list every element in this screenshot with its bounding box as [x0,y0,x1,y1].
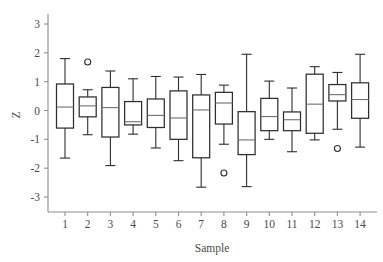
box-group [102,71,119,166]
box-rect [215,92,232,124]
box-rect [57,84,74,128]
box-group [147,76,164,148]
box-rect [79,97,96,117]
box-group [79,59,96,135]
x-tick-label: 8 [221,218,227,230]
x-tick-label: 5 [153,218,159,230]
x-tick-label: 4 [130,218,136,230]
y-tick-label: 2 [34,47,40,59]
y-tick-label: 3 [34,18,40,30]
box-rect [238,112,255,155]
box-group [193,74,210,187]
x-axis-group: 1234567891011121314 [48,212,377,230]
box-group [261,81,278,139]
boxplot-figure: -3-2-10123 1234567891011121314 Z Sample [0,0,383,262]
x-tick-label: 1 [62,218,68,230]
x-tick-label: 7 [198,218,204,230]
x-tick-label: 11 [286,218,297,230]
x-tick-label: 9 [244,218,250,230]
y-tick-label: 0 [34,105,40,117]
box-group [125,79,142,134]
x-tick-label: 3 [108,218,114,230]
box-rect [284,112,301,131]
outlier-point [221,170,227,176]
box-rect [170,91,187,139]
boxes-group [57,54,369,187]
box-rect [193,95,210,158]
y-tick-label: -2 [30,162,40,174]
y-tick-label: 1 [34,76,40,88]
x-tick-label: 13 [332,218,344,230]
outlier-point [334,146,340,152]
x-axis-title: Sample [195,242,230,255]
y-tick-label: -3 [30,191,40,203]
y-axis-title: Z [10,111,22,118]
x-tick-label: 14 [354,218,366,230]
box-group [352,54,369,147]
box-rect [261,98,278,130]
box-group [170,77,187,161]
x-tick-label: 12 [309,218,321,230]
box-group [306,67,323,140]
box-group [238,54,255,186]
box-group [284,88,301,152]
box-group [57,59,74,158]
y-tick-label: -1 [30,133,40,145]
box-rect [329,85,346,101]
boxplot-canvas: -3-2-10123 1234567891011121314 Z Sample [0,0,383,262]
x-tick-label: 2 [85,218,91,230]
box-rect [147,99,164,128]
outlier-point [85,59,91,65]
x-tick-label: 10 [264,218,276,230]
x-tick-label: 6 [176,218,182,230]
box-rect [352,83,369,118]
y-axis-group: -3-2-10123 [30,14,48,212]
box-group [329,72,346,151]
box-group [215,85,232,176]
box-rect [102,87,119,137]
